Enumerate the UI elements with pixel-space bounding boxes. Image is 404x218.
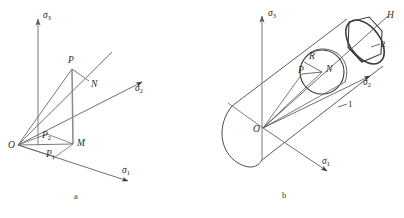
panel-b-section-arc <box>300 49 347 82</box>
panel-b-vector-op <box>263 74 302 128</box>
panel-a-hydrostatic-ray <box>18 52 112 145</box>
panel-b-radius-line <box>304 62 322 72</box>
panel-b-hexagon-edge-hint <box>348 47 362 62</box>
figure-vector-canvas <box>0 0 404 218</box>
panel-b-sigma3-label: σ3 <box>268 9 276 19</box>
panel-a-graphics <box>18 19 142 181</box>
panel-a-point-p1-label: P1 <box>46 150 55 160</box>
panel-a-vector-om <box>18 144 73 145</box>
panel-b-leader-1 <box>338 104 347 107</box>
figure-root: σ3 σ2 σ1 O P N M P1 P2 a σ3 σ2 σ1 O P N … <box>0 0 404 218</box>
panel-b-segment-np <box>302 72 322 74</box>
panel-a-origin-label: O <box>8 141 15 151</box>
panel-a-point-p2-label: P2 <box>42 131 51 141</box>
panel-b-point-p-label: P <box>298 66 304 76</box>
panel-a-point-n-label: N <box>91 80 97 90</box>
panel-b-sigma2-label: σ2 <box>363 78 371 88</box>
panel-b-leader-2 <box>371 44 380 47</box>
panel-b-axis-h-label: H <box>387 11 394 21</box>
panel-b-origin-label: O <box>253 125 260 135</box>
panel-b-graphics <box>222 13 392 171</box>
panel-a-sigma3-label: σ3 <box>43 11 51 21</box>
panel-a-segment-pn <box>72 69 89 81</box>
panel-a-segment-pm <box>72 69 73 144</box>
panel-b-cylinder-near-cap <box>222 106 262 167</box>
panel-b-sigma2-axis <box>263 76 370 128</box>
panel-b-tresca-hexagon <box>348 17 382 62</box>
panel-a-point-m-label: M <box>77 139 85 149</box>
panel-a-segment-p1-m <box>55 144 73 157</box>
panel-b-caption: b <box>282 190 286 200</box>
panel-b-callout-1-label: 1 <box>348 99 353 109</box>
panel-a-sigma2-axis <box>18 82 142 145</box>
panel-b-sigma1-label: σ1 <box>322 157 330 167</box>
panel-b-radius-label: R <box>309 52 315 62</box>
panel-a-sigma1-label: σ1 <box>122 166 130 176</box>
panel-b-point-n-label: N <box>326 65 332 75</box>
panel-a-sigma2-label: σ2 <box>135 84 143 94</box>
panel-a-caption: a <box>74 191 78 201</box>
panel-a-point-p-label: P <box>68 56 74 66</box>
panel-b-callout-2-label: 2 <box>381 39 386 49</box>
